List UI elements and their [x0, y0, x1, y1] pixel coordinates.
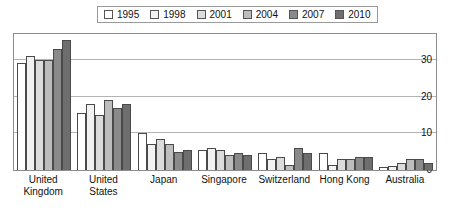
bar — [165, 144, 174, 170]
bar-group-switzerland — [258, 34, 312, 170]
legend-item-2010[interactable]: 2010 — [335, 10, 370, 20]
bar — [225, 155, 234, 170]
bar — [156, 139, 165, 170]
bar — [44, 60, 53, 170]
legend-swatch-icon — [197, 10, 206, 19]
bar — [364, 157, 373, 170]
bar — [113, 108, 122, 170]
bar — [355, 157, 364, 170]
bar — [174, 152, 183, 170]
bar — [95, 115, 104, 170]
category-label-singapore: Singapore — [194, 174, 254, 186]
bar — [424, 163, 433, 170]
bar-group-singapore — [198, 34, 252, 170]
bar — [243, 155, 252, 170]
bar — [328, 165, 337, 171]
legend-label: 1995 — [117, 10, 139, 20]
legend-label: 2004 — [256, 10, 278, 20]
chart-legend: 199519982001200420072010 — [97, 6, 378, 23]
bar — [26, 56, 35, 170]
bar — [138, 133, 147, 170]
plot-area: 0102030 — [13, 33, 437, 171]
bar — [62, 40, 71, 170]
legend-swatch-icon — [289, 10, 298, 19]
bar — [415, 159, 424, 170]
category-label-australia: Australia — [375, 174, 435, 186]
legend-label: 2007 — [302, 10, 324, 20]
legend-label: 2010 — [348, 10, 370, 20]
legend-label: 1998 — [163, 10, 185, 20]
bar — [122, 104, 131, 170]
legend-label: 2001 — [210, 10, 232, 20]
bar — [77, 113, 86, 170]
bar — [104, 100, 113, 170]
legend-item-1998[interactable]: 1998 — [150, 10, 185, 20]
bar — [285, 165, 294, 171]
bar-group-united-kingdom — [17, 34, 71, 170]
legend-swatch-icon — [104, 10, 113, 19]
bar-group-australia — [379, 34, 433, 170]
bar — [276, 157, 285, 170]
bar — [198, 150, 207, 170]
category-label-united-kingdom: United Kingdom — [13, 174, 73, 198]
bar — [17, 63, 26, 170]
bar-group-united-states — [77, 34, 131, 170]
bar — [388, 166, 397, 170]
bar — [35, 60, 44, 170]
bar-group-hong-kong — [319, 34, 373, 170]
bar — [337, 159, 346, 170]
bar — [183, 150, 192, 170]
bar-group-japan — [138, 34, 192, 170]
category-label-japan: Japan — [134, 174, 194, 186]
bar — [234, 153, 243, 170]
category-label-switzerland: Switzerland — [254, 174, 314, 186]
legend-swatch-icon — [335, 10, 344, 19]
x-axis-category-labels: United KingdomUnited StatesJapanSingapor… — [13, 174, 437, 210]
bar — [258, 153, 267, 170]
bar — [406, 159, 415, 170]
bar — [216, 150, 225, 170]
legend-swatch-icon — [150, 10, 159, 19]
category-label-united-states: United States — [73, 174, 133, 198]
bar — [379, 167, 388, 170]
legend-item-1995[interactable]: 1995 — [104, 10, 139, 20]
bar — [303, 153, 312, 170]
legend-item-2004[interactable]: 2004 — [243, 10, 278, 20]
bar — [294, 148, 303, 170]
legend-item-2007[interactable]: 2007 — [289, 10, 324, 20]
bar — [397, 163, 406, 170]
bar-series-container — [14, 34, 436, 170]
bar — [346, 159, 355, 170]
bar — [207, 148, 216, 170]
bar — [53, 49, 62, 170]
bar — [267, 159, 276, 170]
category-label-hong-kong: Hong Kong — [314, 174, 374, 186]
legend-item-2001[interactable]: 2001 — [197, 10, 232, 20]
bar — [319, 153, 328, 170]
bar — [147, 144, 156, 170]
bar — [86, 104, 95, 170]
legend-swatch-icon — [243, 10, 252, 19]
